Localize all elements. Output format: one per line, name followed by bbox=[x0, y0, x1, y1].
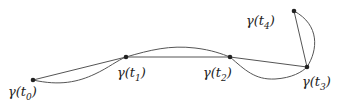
label-t3: γ(t3) bbox=[302, 75, 331, 92]
label-t1: γ(t1) bbox=[117, 66, 146, 83]
diagram-canvas bbox=[0, 0, 347, 105]
label-t2: γ(t2) bbox=[203, 66, 232, 83]
point-t0 bbox=[31, 78, 36, 83]
point-t4 bbox=[292, 9, 297, 14]
curve-segment-t1-t2 bbox=[126, 47, 230, 57]
chord-t2-t3 bbox=[230, 57, 307, 67]
point-t1 bbox=[124, 55, 129, 60]
curve-segment-t2-t3 bbox=[230, 57, 307, 79]
label-t4: γ(t4) bbox=[246, 14, 275, 31]
curve-segment-t3-t4 bbox=[294, 11, 315, 67]
chord-t0-t1 bbox=[33, 57, 126, 80]
point-t3 bbox=[305, 65, 310, 70]
label-t0: γ(t0) bbox=[8, 85, 37, 102]
curve-diagram: γ(t0)γ(t1)γ(t2)γ(t3)γ(t4) bbox=[0, 0, 347, 105]
point-t2 bbox=[228, 55, 233, 60]
